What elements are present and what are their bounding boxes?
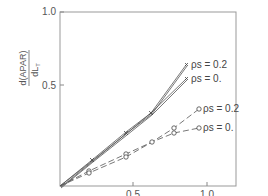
- y-tick-label-05: 0.5: [42, 80, 56, 91]
- legend-label-circle-0.2: ρs = 0.2: [203, 103, 239, 114]
- y-label-denominator: dLT: [30, 63, 41, 77]
- x-tick-label-05: 0.5: [126, 189, 140, 196]
- y-tick-label-1: 1.0: [42, 6, 56, 17]
- cross-markers: [90, 63, 188, 162]
- legend-label-cross-0.2: ρs = 0.2: [191, 59, 227, 70]
- chart: 1.0 0.5 0.5 1.0 d(APAR) dLT: [0, 0, 268, 196]
- y-axis-label: d(APAR) dLT: [18, 50, 41, 86]
- circle-markers: [87, 107, 201, 175]
- series-cross-0: [60, 79, 187, 188]
- x-tick-label-1: 1.0: [200, 189, 214, 196]
- series-cross-0.2: [60, 65, 187, 187]
- y-label-numerator: d(APAR): [18, 51, 28, 86]
- series-circle-0: [60, 128, 199, 186]
- legend-label-cross-0: ρs = 0.: [191, 73, 221, 84]
- legend-label-circle-0: ρs = 0.: [203, 122, 233, 133]
- plot-frame: [60, 12, 236, 186]
- series-circle-0.2: [60, 109, 199, 186]
